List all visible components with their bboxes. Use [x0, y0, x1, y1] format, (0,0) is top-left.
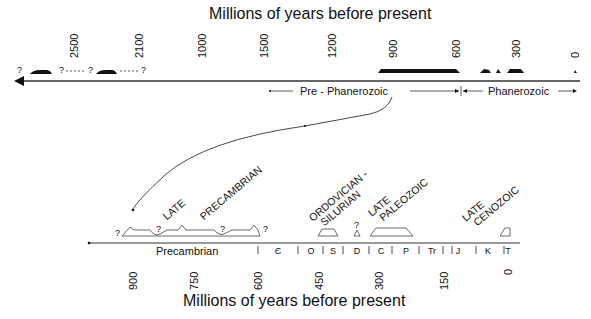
bottom-tick-150: 150: [438, 272, 450, 290]
bottom-tick-0: 0: [502, 269, 514, 275]
period-tertiary: T: [488, 246, 528, 256]
period-silurian: S: [323, 246, 343, 256]
uncertainty-mark: ?: [156, 224, 161, 234]
uncertainty-mark: ?: [263, 224, 268, 234]
period-jurassic: J: [448, 246, 468, 256]
glacial-interval: [507, 69, 524, 73]
glacial-interval: [96, 70, 117, 74]
bottom-axis-title: Millions of years before present: [183, 292, 405, 310]
glacial-interval: [378, 69, 460, 73]
period-ordovician: O: [301, 246, 321, 256]
bottom-tick-900: 900: [127, 272, 139, 290]
bottom-tick-750: 750: [188, 272, 200, 290]
glaciation-devonian: [354, 230, 360, 236]
uncertainty-mark: ?: [115, 228, 120, 238]
glacial-interval: [496, 69, 501, 73]
period-carboniferous: C: [371, 246, 391, 256]
glacial-interval: [574, 70, 577, 73]
arrow-left-icon: [14, 76, 24, 86]
period-triassic: Tr: [422, 246, 442, 256]
bottom-tick-600: 600: [252, 272, 264, 290]
uncertainty-mark: ?: [354, 220, 359, 230]
period-cambrian: Є: [268, 246, 288, 256]
bottom-tick-450: 450: [313, 272, 325, 290]
glacial-interval: [480, 69, 491, 73]
glaciation-late-precambrian: [122, 225, 260, 236]
uncertainty-mark: ?: [220, 224, 225, 234]
bottom-tick-300: 300: [373, 272, 385, 290]
period-precambrian: Precambrian: [156, 245, 218, 257]
glaciation-late-paleozoic: [370, 228, 413, 236]
glacial-interval: [30, 70, 52, 74]
period-permian: P: [396, 246, 416, 256]
period-devonian: D: [347, 246, 367, 256]
glaciation-late-cenozoic: [500, 228, 510, 236]
